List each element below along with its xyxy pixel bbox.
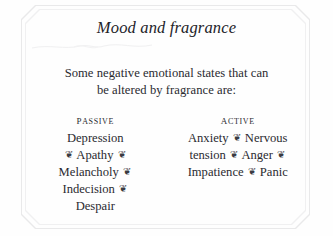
page-title: Mood and fragrance <box>30 0 303 37</box>
column-line: Depression <box>30 130 161 147</box>
column-line: Impatience ❦ Panic <box>173 164 304 181</box>
column-heading-active: Active <box>173 111 304 130</box>
heart-dingbat-icon: ❦ <box>64 150 74 160</box>
column-passive: Passive Depression ❦ Apathy ❦ Melancholy… <box>30 111 167 214</box>
subtitle-line: be altered by fragrance are: <box>41 82 293 99</box>
heart-dingbat-icon: ❦ <box>118 184 128 194</box>
columns-container: Passive Depression ❦ Apathy ❦ Melancholy… <box>30 111 303 214</box>
heart-dingbat-icon: ❦ <box>247 167 257 177</box>
column-line: ❦ Apathy ❦ <box>30 147 161 164</box>
flourish-ornament <box>30 42 154 51</box>
heart-dingbat-icon: ❦ <box>122 167 132 177</box>
column-heading-passive: Passive <box>30 111 161 130</box>
page-content: Mood and fragrance Some negative emotion… <box>0 0 333 236</box>
heart-dingbat-icon: ❦ <box>229 150 239 160</box>
column-line: tension ❦ Anger ❦ <box>173 147 304 164</box>
column-line: Indecision ❦ <box>30 181 161 198</box>
column-active: Active Anxiety ❦ Nervous tension ❦ Anger… <box>167 111 304 214</box>
column-line: Melancholy ❦ <box>30 164 161 181</box>
column-line: Anxiety ❦ Nervous <box>173 130 304 147</box>
heart-dingbat-icon: ❦ <box>276 150 286 160</box>
heart-dingbat-icon: ❦ <box>232 133 242 143</box>
subtitle-line: Some negative emotional states that can <box>41 65 293 82</box>
page-subtitle: Some negative emotional states that can … <box>41 65 293 98</box>
column-line: Despair <box>30 198 161 215</box>
document-page: Mood and fragrance Some negative emotion… <box>0 0 333 236</box>
heart-dingbat-icon: ❦ <box>117 150 127 160</box>
